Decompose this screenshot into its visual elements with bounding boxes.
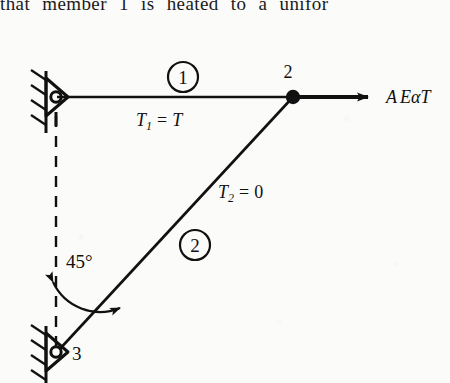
figure-page: that member 1 is heated to a unifor	[0, 0, 450, 383]
member-2-temperature-label: T2=0	[218, 182, 263, 205]
member-1-badge-label: 1	[178, 67, 188, 88]
member-2-line	[57, 97, 293, 352]
support-3-pin-hole	[51, 347, 61, 357]
truss-diagram: 1 T1=T T₁ = T 2 AEαT AEαT T2=0 T₂ = 0 2	[0, 0, 450, 383]
load-label: AEαT	[385, 87, 432, 107]
member-1-temperature-label: T1=T	[136, 110, 184, 133]
support-1-hatching	[31, 70, 46, 125]
support-3-hatching	[31, 325, 46, 380]
angle-arc	[53, 282, 120, 312]
member-2-badge-label: 2	[190, 235, 200, 256]
support-node-3	[31, 325, 68, 383]
node-3-label: 3	[72, 343, 82, 364]
support-node-1	[31, 70, 68, 133]
node-2-label: 2	[284, 62, 293, 82]
member-2-badge: 2	[180, 230, 210, 260]
angle-label: 45°	[66, 251, 93, 272]
member-1-badge: 1	[168, 62, 198, 92]
